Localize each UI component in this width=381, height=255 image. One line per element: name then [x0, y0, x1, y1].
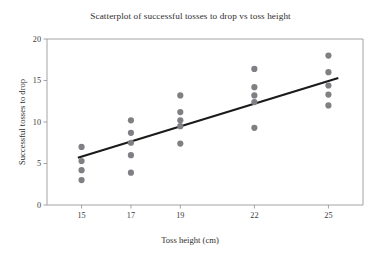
data-point — [128, 117, 134, 123]
trend-line — [78, 78, 338, 158]
data-point — [325, 53, 331, 59]
x-tick-label: 15 — [77, 211, 85, 220]
y-tick-label: 15 — [33, 76, 41, 85]
data-point — [177, 92, 183, 98]
plot-area: 051015201517192225 Toss height (cm) Succ… — [0, 0, 381, 255]
data-point — [325, 82, 331, 88]
data-point — [177, 123, 183, 129]
data-point — [177, 117, 183, 123]
data-point — [78, 167, 84, 173]
data-point — [78, 177, 84, 183]
x-tick-label: 22 — [250, 211, 258, 220]
x-tick-label: 17 — [127, 211, 135, 220]
data-point — [128, 152, 134, 158]
x-tick-label: 25 — [324, 211, 332, 220]
plot-frame — [47, 39, 363, 205]
data-point — [325, 102, 331, 108]
data-point — [251, 125, 257, 131]
scatterplot-figure: Scatterplot of successful tosses to drop… — [0, 0, 381, 255]
data-point — [78, 144, 84, 150]
data-point — [128, 130, 134, 136]
data-point — [251, 84, 257, 90]
axes — [47, 39, 363, 205]
data-point — [251, 66, 257, 72]
y-tick-label: 0 — [37, 201, 41, 210]
data-point — [177, 109, 183, 115]
x-axis-title: Toss height (cm) — [161, 235, 219, 245]
x-tick-label: 19 — [176, 211, 184, 220]
data-point — [325, 69, 331, 75]
y-tick-label: 20 — [33, 35, 41, 44]
data-point — [128, 140, 134, 146]
y-tick-label: 5 — [37, 159, 41, 168]
data-point — [177, 140, 183, 146]
y-axis-title: Successful tosses to drop — [17, 79, 27, 165]
data-point — [325, 92, 331, 98]
y-tick-label: 10 — [33, 118, 41, 127]
data-point — [251, 99, 257, 105]
data-point — [128, 170, 134, 176]
data-point — [251, 92, 257, 98]
data-point — [78, 158, 84, 164]
regression-line — [78, 78, 338, 158]
